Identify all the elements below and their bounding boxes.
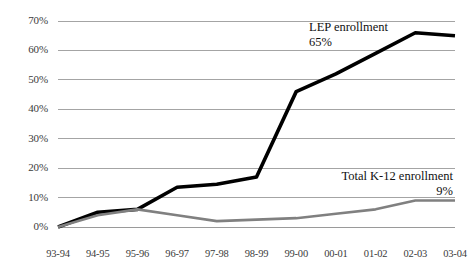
y-tick-50%: 50% xyxy=(4,74,48,85)
y-tick-40%: 40% xyxy=(4,103,48,114)
chart-plot-area xyxy=(0,0,476,271)
annotation-total-value: 9% xyxy=(293,184,453,199)
annotation-lep-label: LEP enrollment xyxy=(309,20,388,34)
x-tick-03-04: 03-04 xyxy=(429,249,476,260)
y-tick-60%: 60% xyxy=(4,44,48,55)
annotation-lep-value: 65% xyxy=(309,35,388,50)
annotation-total-label: Total K-12 enrollment xyxy=(341,169,453,183)
y-tick-10%: 10% xyxy=(4,192,48,203)
annotation-total-k12-enrollment: Total K-12 enrollment 9% xyxy=(293,169,453,199)
y-tick-70%: 70% xyxy=(4,15,48,26)
line-chart: 0%10%20%30%40%50%60%70% 93-9494-9595-969… xyxy=(0,0,476,271)
y-tick-0%: 0% xyxy=(4,221,48,232)
y-tick-30%: 30% xyxy=(4,133,48,144)
annotation-lep-enrollment: LEP enrollment 65% xyxy=(309,20,388,50)
series-line-total-k-12-enrollment xyxy=(58,201,455,227)
y-tick-20%: 20% xyxy=(4,162,48,173)
